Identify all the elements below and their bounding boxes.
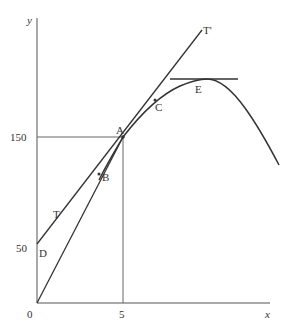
y-axis-label: y [26, 14, 32, 26]
chord-oa [37, 137, 123, 303]
point-c-label: C [155, 101, 162, 113]
y-tick-50: 50 [16, 242, 28, 254]
x-axis-label: x [264, 308, 270, 320]
tangent-curve-diagram: y x 0 5 50 150 A B C D E T T' [0, 0, 303, 330]
point-b-marker [98, 173, 101, 176]
tangent-t-prime-label: T' [203, 24, 212, 36]
x-tick-5: 5 [119, 308, 125, 320]
y-tick-150: 150 [10, 131, 27, 143]
tangent-t-label: T [53, 208, 60, 220]
point-e-label: E [195, 83, 202, 95]
x-tick-0: 0 [27, 308, 33, 320]
point-d-label: D [39, 247, 47, 259]
point-b-label: B [102, 171, 109, 183]
point-a-label: A [116, 124, 124, 136]
